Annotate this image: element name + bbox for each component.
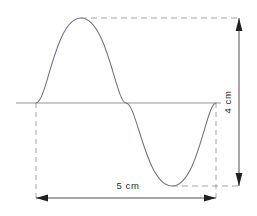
amplitude-top-arrowhead <box>236 18 243 31</box>
wavelength-label: 5 cm <box>117 180 140 191</box>
wave-diagram-canvas: 5 cm 4 cm <box>0 0 257 216</box>
wavelength-right-arrowhead <box>204 195 216 202</box>
wave-diagram-figure: 5 cm 4 cm <box>0 0 257 216</box>
wavelength-left-arrowhead <box>36 195 48 202</box>
sine-wave-curve <box>36 18 216 186</box>
amplitude-bottom-arrowhead <box>236 173 243 186</box>
amplitude-label: 4 cm <box>222 91 233 114</box>
